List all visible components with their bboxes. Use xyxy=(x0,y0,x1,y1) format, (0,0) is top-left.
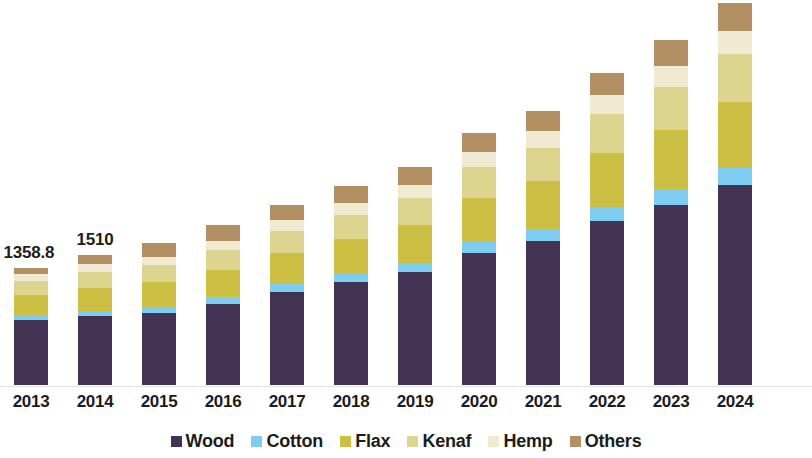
bar-segment-wood-2021[interactable] xyxy=(526,241,560,385)
bar-segment-kenaf-2019[interactable] xyxy=(398,198,432,225)
bar-segment-wood-2020[interactable] xyxy=(462,253,496,385)
bar-group-2018[interactable] xyxy=(334,186,368,385)
legend-swatch-hemp-icon xyxy=(488,436,499,447)
bar-segment-wood-2015[interactable] xyxy=(142,313,176,385)
legend-item-cotton[interactable]: Cotton xyxy=(251,432,323,450)
bar-group-2019[interactable] xyxy=(398,167,432,385)
bar-segment-kenaf-2017[interactable] xyxy=(270,231,304,253)
bar-segment-hemp-2021[interactable] xyxy=(526,131,560,148)
bar-segment-wood-2022[interactable] xyxy=(590,221,624,385)
bar-group-2023[interactable] xyxy=(654,40,688,385)
legend-item-hemp[interactable]: Hemp xyxy=(488,432,552,450)
bar-segment-hemp-2023[interactable] xyxy=(654,66,688,87)
legend-item-kenaf[interactable]: Kenaf xyxy=(407,432,471,450)
x-tick-label-2014: 2014 xyxy=(63,392,127,412)
bar-segment-cotton-2020[interactable] xyxy=(462,242,496,253)
bar-segment-flax-2013[interactable] xyxy=(14,295,48,315)
bar-stack xyxy=(206,225,240,385)
bar-stack xyxy=(78,255,112,385)
bar-segment-wood-2014[interactable] xyxy=(78,316,112,385)
bar-segment-hemp-2017[interactable] xyxy=(270,220,304,231)
bar-segment-cotton-2024[interactable] xyxy=(718,168,752,185)
bar-segment-flax-2017[interactable] xyxy=(270,253,304,284)
bar-segment-flax-2015[interactable] xyxy=(142,282,176,307)
bar-segment-kenaf-2020[interactable] xyxy=(462,167,496,198)
x-tick-label-2023: 2023 xyxy=(639,392,703,412)
bar-segment-hemp-2020[interactable] xyxy=(462,152,496,168)
bar-segment-cotton-2016[interactable] xyxy=(206,297,240,304)
bar-segment-hemp-2016[interactable] xyxy=(206,241,240,251)
bar-segment-others-2023[interactable] xyxy=(654,40,688,66)
bar-group-2022[interactable] xyxy=(590,73,624,385)
bar-segment-wood-2013[interactable] xyxy=(14,320,48,385)
bar-segment-others-2015[interactable] xyxy=(142,243,176,256)
bar-segment-others-2021[interactable] xyxy=(526,111,560,131)
bar-group-2020[interactable] xyxy=(462,133,496,385)
bar-segment-flax-2016[interactable] xyxy=(206,270,240,298)
bar-group-2017[interactable] xyxy=(270,205,304,385)
bar-segment-hemp-2019[interactable] xyxy=(398,185,432,198)
x-tick-label-2024: 2024 xyxy=(703,392,767,412)
bar-segment-hemp-2024[interactable] xyxy=(718,31,752,55)
bar-segment-cotton-2021[interactable] xyxy=(526,229,560,241)
legend-swatch-cotton-icon xyxy=(251,436,262,447)
bar-segment-others-2024[interactable] xyxy=(718,3,752,31)
legend-item-flax[interactable]: Flax xyxy=(340,432,390,450)
bar-segment-hemp-2022[interactable] xyxy=(590,95,624,114)
bar-segment-wood-2023[interactable] xyxy=(654,205,688,385)
bar-segment-cotton-2018[interactable] xyxy=(334,274,368,282)
bar-segment-hemp-2014[interactable] xyxy=(78,264,112,272)
bar-segment-cotton-2017[interactable] xyxy=(270,284,304,292)
bar-segment-hemp-2015[interactable] xyxy=(142,257,176,266)
bar-segment-wood-2018[interactable] xyxy=(334,282,368,385)
bar-group-2013[interactable]: 1358.8 xyxy=(14,268,48,385)
bar-segment-flax-2014[interactable] xyxy=(78,288,112,310)
bar-segment-kenaf-2024[interactable] xyxy=(718,54,752,101)
bar-segment-others-2016[interactable] xyxy=(206,225,240,241)
bar-segment-flax-2018[interactable] xyxy=(334,239,368,273)
bar-segment-kenaf-2013[interactable] xyxy=(14,281,48,295)
bar-segment-wood-2019[interactable] xyxy=(398,272,432,385)
bar-segment-kenaf-2015[interactable] xyxy=(142,265,176,282)
bar-stack xyxy=(14,268,48,385)
bar-segment-wood-2024[interactable] xyxy=(718,185,752,385)
legend-item-wood[interactable]: Wood xyxy=(171,432,235,450)
bar-segment-kenaf-2014[interactable] xyxy=(78,272,112,288)
bar-segment-others-2019[interactable] xyxy=(398,167,432,185)
bar-segment-hemp-2013[interactable] xyxy=(14,274,48,281)
bar-stack xyxy=(270,205,304,385)
legend-label-cotton: Cotton xyxy=(266,432,323,450)
bar-group-2015[interactable] xyxy=(142,243,176,385)
bar-segment-flax-2024[interactable] xyxy=(718,102,752,168)
bar-segment-kenaf-2016[interactable] xyxy=(206,250,240,269)
bar-segment-kenaf-2023[interactable] xyxy=(654,87,688,130)
bar-stack xyxy=(526,111,560,385)
bar-segment-others-2017[interactable] xyxy=(270,205,304,221)
bar-segment-hemp-2018[interactable] xyxy=(334,203,368,215)
bar-segment-others-2014[interactable] xyxy=(78,255,112,264)
bar-segment-wood-2017[interactable] xyxy=(270,292,304,385)
legend-swatch-others-icon xyxy=(570,436,581,447)
legend-item-others[interactable]: Others xyxy=(570,432,642,450)
bar-segment-others-2018[interactable] xyxy=(334,186,368,203)
bar-segment-flax-2020[interactable] xyxy=(462,198,496,242)
bar-segment-cotton-2023[interactable] xyxy=(654,189,688,205)
bar-segment-kenaf-2022[interactable] xyxy=(590,114,624,153)
bar-segment-flax-2019[interactable] xyxy=(398,225,432,263)
bar-group-2021[interactable] xyxy=(526,111,560,385)
bar-segment-cotton-2019[interactable] xyxy=(398,263,432,272)
bar-segment-flax-2022[interactable] xyxy=(590,153,624,207)
bar-segment-kenaf-2021[interactable] xyxy=(526,148,560,182)
bar-segment-others-2020[interactable] xyxy=(462,133,496,152)
bar-segment-flax-2021[interactable] xyxy=(526,181,560,229)
bar-segment-others-2022[interactable] xyxy=(590,73,624,95)
bar-group-2024[interactable] xyxy=(718,3,752,385)
bar-group-2014[interactable]: 1510 xyxy=(78,255,112,385)
bar-group-2016[interactable] xyxy=(206,225,240,385)
bar-segment-kenaf-2018[interactable] xyxy=(334,215,368,239)
bar-segment-wood-2016[interactable] xyxy=(206,304,240,385)
x-axis-tick-labels: 2013201420152016201720182019202020212022… xyxy=(0,392,812,420)
bar-segment-cotton-2022[interactable] xyxy=(590,207,624,221)
legend-swatch-wood-icon xyxy=(171,436,182,447)
bar-segment-flax-2023[interactable] xyxy=(654,130,688,190)
